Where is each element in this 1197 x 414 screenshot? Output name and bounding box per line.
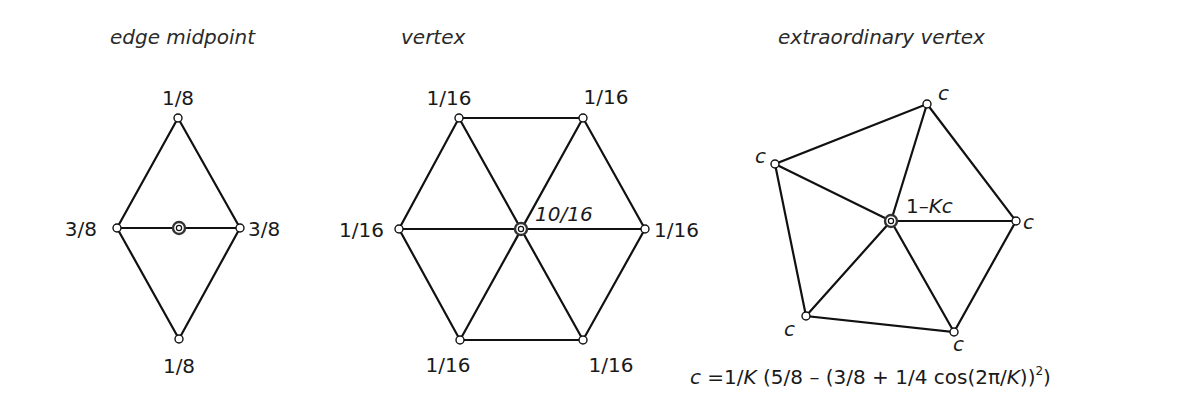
vertex-node <box>395 225 403 233</box>
weight-label-top: 1/8 <box>162 86 194 110</box>
vertex-node <box>175 335 183 343</box>
vertex-node <box>923 100 931 108</box>
weight-label-top-left: 1/16 <box>427 86 472 110</box>
edge-midpoint-title: edge midpoint <box>110 25 256 49</box>
vertex-node <box>1012 217 1020 225</box>
weight-label-left: 1/16 <box>339 218 384 242</box>
edge-midpoint-panel: edge midpoint 1/8 3/8 3/8 1/8 <box>65 25 280 378</box>
weight-label-bottom-left: c <box>784 317 795 341</box>
weight-label-top-right: 1/16 <box>584 85 629 109</box>
vertex-node <box>174 114 182 122</box>
weight-label-right: 1/16 <box>654 218 699 242</box>
vertex-node <box>771 160 779 168</box>
weight-formula: c =1/K (5/8 – (3/8 + 1/4 cos(2π/K))2) <box>690 364 1051 389</box>
weight-label-bottom-left: 1/16 <box>426 353 471 377</box>
weight-label-left: c <box>755 144 766 168</box>
vertex-node <box>455 114 463 122</box>
vertex-node <box>802 312 810 320</box>
weight-label-bottom: 1/8 <box>163 354 195 378</box>
center-point-marker <box>885 215 897 227</box>
weight-label-left: 3/8 <box>65 217 97 241</box>
weight-label-right: c <box>1023 210 1034 234</box>
vertex-node <box>641 225 649 233</box>
extraordinary-vertex-title: extraordinary vertex <box>778 25 985 49</box>
center-point-marker <box>515 223 527 235</box>
weight-label-bottom-right: c <box>953 332 964 356</box>
weight-label-right: 3/8 <box>248 217 280 241</box>
center-point-marker <box>173 222 185 234</box>
vertex-title: vertex <box>401 25 466 49</box>
vertex-node <box>579 336 587 344</box>
vertex-node <box>113 224 121 232</box>
weight-label-bottom-right: 1/16 <box>589 353 634 377</box>
subdivision-masks-diagram: edge midpoint 1/8 3/8 3/8 1/8 vertex <box>0 0 1197 414</box>
vertex-panel: vertex 1/16 1/16 1/16 1/16 1/16 1/16 10/… <box>339 25 699 377</box>
weight-label-top: c <box>938 81 949 105</box>
vertex-node <box>236 224 244 232</box>
vertex-node <box>456 336 464 344</box>
vertex-node <box>579 114 587 122</box>
weight-label-center: 10/16 <box>535 202 593 226</box>
weight-label-center: 1–Kc <box>906 194 953 218</box>
extraordinary-vertex-panel: extraordinary vertex c c c c c 1–Kc c =1… <box>690 25 1051 389</box>
